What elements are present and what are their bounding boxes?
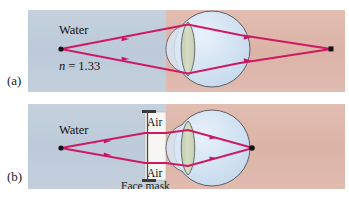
- panel-a-index-symbol: n: [59, 59, 65, 73]
- panel-a-lens: [181, 22, 195, 76]
- panel-a-index-equals: =: [68, 59, 75, 73]
- panel-a-object-point: [58, 46, 63, 51]
- panel-a-image-point: [329, 46, 334, 51]
- panel-b-face-mask-label: Face mask: [121, 180, 170, 192]
- panel-b-water-label: Water: [59, 123, 89, 137]
- panel-a-water-label: Water: [59, 23, 89, 37]
- panel-b-face-mask-cap-top: [142, 110, 156, 113]
- panel-b-image-point: [249, 145, 255, 151]
- panel-b: Water Air Air Face mask: [28, 104, 345, 192]
- panel-a-letter: (a): [7, 73, 21, 89]
- panel-b-object-point: [58, 145, 63, 150]
- figure-canvas: Water n=1.33: [0, 0, 349, 199]
- panel-a-water-band: [28, 10, 166, 92]
- panel-a-index-label: n=1.33: [59, 59, 100, 73]
- panel-b-air-bottom-label: Air: [147, 167, 163, 179]
- panel-a-index-value: 1.33: [78, 59, 100, 73]
- optics-figure: Water n=1.33: [0, 0, 349, 199]
- panel-a: Water n=1.33: [28, 10, 345, 92]
- panel-b-air-top-label: Air: [147, 116, 163, 128]
- panel-b-letter: (b): [7, 169, 22, 185]
